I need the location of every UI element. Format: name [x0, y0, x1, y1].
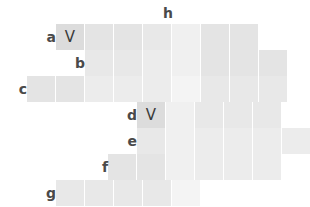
grid-cell-e-2[interactable]: [166, 128, 194, 154]
grid-cell-b-7[interactable]: [259, 50, 287, 76]
grid-cell-c-3[interactable]: [85, 76, 113, 102]
grid-cell-c-2[interactable]: [56, 76, 84, 102]
grid-cell-a-6[interactable]: [201, 24, 229, 50]
grid-cell-d-2[interactable]: [166, 102, 194, 128]
grid-cell-a-3[interactable]: [114, 24, 142, 50]
grid-cell-f-3[interactable]: [166, 154, 194, 180]
grid-cell-c-7[interactable]: [201, 76, 229, 102]
grid-cell-a-2[interactable]: [85, 24, 113, 50]
column-label-h: h: [160, 4, 176, 22]
grid-cell-d-5[interactable]: [253, 102, 281, 128]
grid-cell-b-4[interactable]: [172, 50, 200, 76]
grid-cell-c-5[interactable]: [143, 76, 171, 102]
grid-cell-b-2[interactable]: [114, 50, 142, 76]
row-label-a: a: [40, 24, 56, 50]
grid-cell-g-4[interactable]: [143, 180, 171, 206]
grid-cell-f-4[interactable]: [195, 154, 223, 180]
check-mark-icon-2: V: [137, 102, 165, 128]
grid-cell-a-5[interactable]: [172, 24, 200, 50]
grid-cell-e-5[interactable]: [253, 128, 281, 154]
grid-cell-f-2[interactable]: [137, 154, 165, 180]
row-label-e: e: [121, 128, 137, 154]
row-label-g: g: [40, 180, 56, 206]
grid-cell-c-8[interactable]: [230, 76, 258, 102]
grid-cell-f-1[interactable]: [108, 154, 136, 180]
row-label-b: b: [69, 50, 85, 76]
grid-cell-g-3[interactable]: [114, 180, 142, 206]
check-mark-icon-1: V: [56, 24, 84, 50]
grid-cell-a-7[interactable]: [230, 24, 258, 50]
row-label-d: d: [121, 102, 137, 128]
grid-cell-b-3[interactable]: [143, 50, 171, 76]
grid-cell-e-6[interactable]: [282, 128, 310, 154]
cell-grid-board: abcdefghVV: [0, 0, 310, 207]
grid-cell-c-9[interactable]: [259, 76, 287, 102]
grid-cell-f-6[interactable]: [253, 154, 281, 180]
grid-cell-c-4[interactable]: [114, 76, 142, 102]
grid-cell-e-3[interactable]: [195, 128, 223, 154]
row-label-f: f: [92, 154, 108, 180]
grid-cell-c-1[interactable]: [27, 76, 55, 102]
grid-cell-b-1[interactable]: [85, 50, 113, 76]
grid-cell-g-5[interactable]: [172, 180, 200, 206]
grid-cell-e-4[interactable]: [224, 128, 252, 154]
grid-cell-f-5[interactable]: [224, 154, 252, 180]
grid-cell-g-2[interactable]: [85, 180, 113, 206]
grid-cell-e-1[interactable]: [137, 128, 165, 154]
grid-cell-c-6[interactable]: [172, 76, 200, 102]
grid-cell-d-4[interactable]: [224, 102, 252, 128]
row-label-c: c: [11, 76, 27, 102]
grid-cell-b-5[interactable]: [201, 50, 229, 76]
grid-cell-b-6[interactable]: [230, 50, 258, 76]
grid-cell-g-1[interactable]: [56, 180, 84, 206]
grid-cell-a-4[interactable]: [143, 24, 171, 50]
grid-cell-d-3[interactable]: [195, 102, 223, 128]
